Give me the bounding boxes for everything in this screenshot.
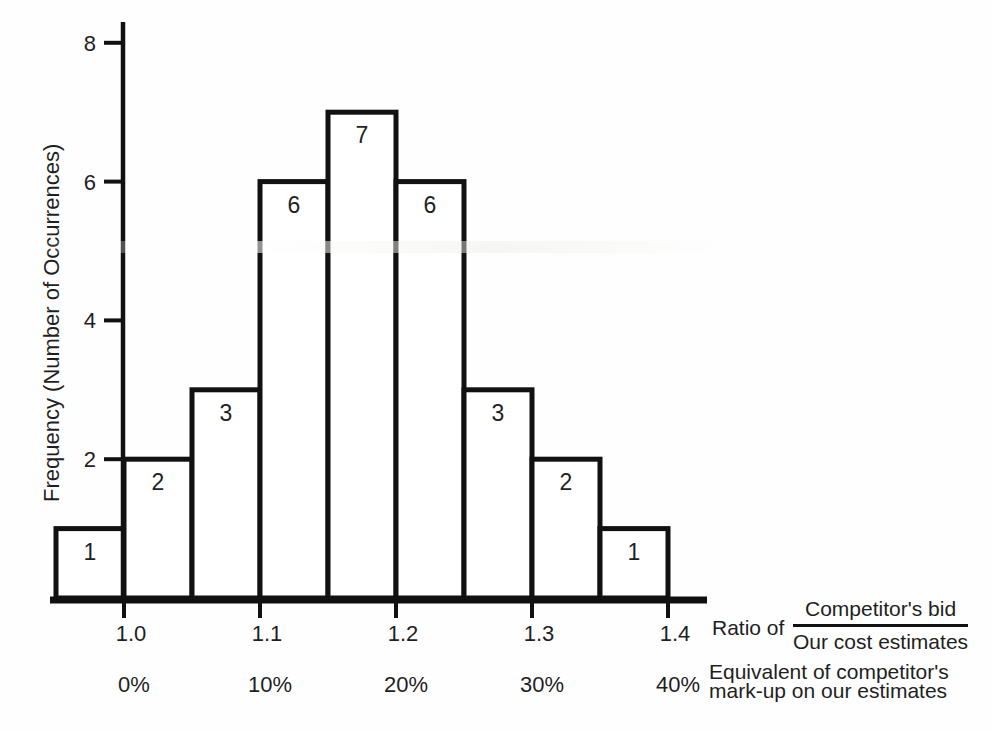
histogram-figure: 12367632124681.00%1.110%1.220%1.330%1.44…: [0, 0, 992, 731]
bar-value-label: 6: [424, 192, 437, 218]
fraction-numerator: Competitor's bid: [793, 597, 968, 627]
bar-value-label: 7: [356, 122, 369, 148]
y-tick-label: 6: [84, 170, 96, 195]
x-tick-ratio-label: 1.4: [660, 621, 691, 646]
bar-value-label: 2: [560, 469, 573, 495]
bar-value-label: 6: [288, 192, 301, 218]
y-tick-label: 8: [84, 31, 96, 56]
x-tick-ratio-label: 1.0: [116, 621, 147, 646]
y-tick-label: 4: [84, 308, 96, 333]
fraction-denominator: Our cost estimates: [793, 627, 968, 653]
x-tick-ratio-label: 1.3: [524, 621, 555, 646]
x-tick-percent-label: 30%: [520, 672, 564, 697]
bar-value-label: 2: [152, 469, 165, 495]
histogram-bar: [396, 182, 464, 598]
x-tick-ratio-label: 1.1: [252, 621, 283, 646]
x-axis-secondary-label: Equivalent of competitor's mark-up on ou…: [709, 662, 949, 700]
x-tick-percent-label: 10%: [248, 672, 292, 697]
x-tick-percent-label: 20%: [384, 672, 428, 697]
y-axis-title: Frequency (Number of Occurrences): [39, 162, 65, 502]
y-tick-label: 2: [84, 447, 96, 472]
bar-value-label: 3: [492, 400, 505, 426]
bar-value-label: 1: [628, 539, 641, 565]
x-tick-percent-label: 40%: [656, 672, 700, 697]
bar-value-label: 1: [84, 539, 97, 565]
x-tick-percent-label: 0%: [118, 672, 150, 697]
secondary-label-line2: mark-up on our estimates: [709, 681, 949, 700]
x-axis-ratio-prefix-label: Ratio of: [712, 616, 784, 640]
x-tick-ratio-label: 1.2: [388, 621, 419, 646]
histogram-bar: [260, 182, 328, 598]
histogram-bar: [328, 112, 396, 598]
ratio-fraction: Competitor's bid Our cost estimates: [793, 597, 968, 653]
bar-value-label: 3: [220, 400, 233, 426]
